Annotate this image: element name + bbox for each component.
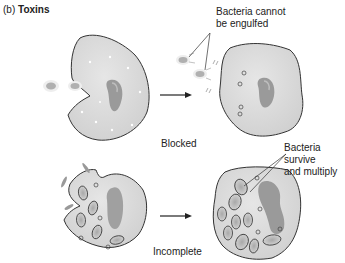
leader-lines-top: [189, 33, 210, 70]
bacteria-outside-top-left: [43, 80, 82, 92]
bacteria-outside-top-right: [176, 53, 218, 93]
phagocyte-top-right: [220, 44, 303, 137]
annotation-blocked: Bacteria cannot be engulfed: [216, 6, 286, 30]
annotation-line-2: be engulfed: [216, 18, 286, 30]
phagocyte-bottom-right: [213, 167, 300, 259]
diagram-graphics: [0, 0, 345, 263]
arrow-bottom: [160, 213, 192, 219]
caption-incomplete: Incomplete: [153, 246, 202, 258]
annotation-line-3: and multiply: [284, 166, 337, 178]
figure-panel: (b) Toxins: [0, 0, 345, 263]
annotation-incomplete: Bacteria survive and multiply: [284, 142, 337, 178]
annotation-line-1: Bacteria: [284, 142, 337, 154]
caption-blocked: Blocked: [161, 138, 197, 150]
arrow-top: [160, 92, 192, 98]
phagocyte-bottom-left: [64, 170, 147, 249]
annotation-line-1: Bacteria cannot: [216, 6, 286, 18]
annotation-line-2: survive: [284, 154, 337, 166]
